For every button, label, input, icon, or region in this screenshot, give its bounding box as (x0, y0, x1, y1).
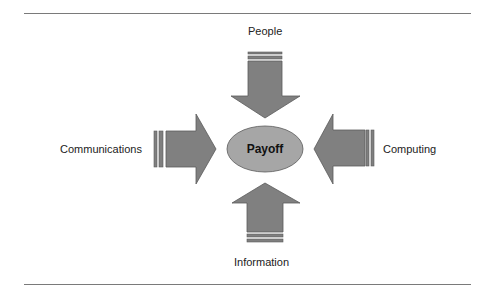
computing-label: Computing (383, 143, 436, 155)
people-label: People (248, 25, 282, 37)
arrow-information (232, 183, 300, 242)
arrow-computing (314, 114, 374, 184)
payoff-label: Payoff (227, 126, 303, 172)
information-label: Information (234, 256, 289, 268)
arrow-communications (154, 114, 216, 184)
arrow-people (231, 52, 300, 118)
communications-label: Communications (60, 143, 142, 155)
